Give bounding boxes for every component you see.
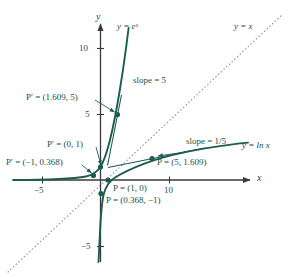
- ln-curve-label: y = ln x: [242, 141, 270, 150]
- leader-p-prime-1609-5: [95, 100, 115, 112]
- y-tick-label--5: −5: [81, 242, 91, 251]
- x-tick-label--5: −5: [34, 186, 44, 195]
- label-p-prime-0-1: P′ = (0, 1): [47, 140, 83, 149]
- label-p-prime-neg1-0368: P′ = (−1, 0.368): [6, 158, 63, 167]
- slope-ln-label: slope = 1/5: [186, 137, 226, 146]
- exp-curve-label: y = eˣ: [117, 22, 138, 31]
- tangent-exp: [108, 95, 122, 166]
- label-p-5-1609: P = (5, 1.609): [157, 158, 207, 167]
- figure-container: y x −5 10 10 5 −5 y = eˣ y = x y = ln x …: [0, 0, 289, 277]
- y-tick-label-10: 10: [79, 44, 88, 53]
- point-p-1-0: [105, 177, 110, 182]
- label-p-1-0: P = (1, 0): [113, 184, 147, 193]
- leader-p-prime-neg1: [82, 165, 92, 173]
- slope-exp-label: slope = 5: [133, 76, 166, 85]
- point-p-prime-0-1: [98, 164, 103, 169]
- point-p-prime-neg1-0368: [91, 173, 96, 178]
- x-axis-label: x: [257, 173, 261, 183]
- y-tick-label-5: 5: [85, 110, 90, 119]
- label-p-prime-1609-5: P′ = (1.609, 5): [26, 93, 78, 102]
- x-tick-label-10: 10: [164, 186, 173, 195]
- identity-curve-label: y = x: [234, 22, 253, 31]
- point-p-5-1609: [149, 156, 154, 161]
- point-p-0368-neg1: [98, 191, 103, 196]
- plot-canvas: [0, 0, 289, 277]
- y-axis-label: y: [96, 12, 100, 22]
- label-p-0368-neg1: P = (0.368, −1): [106, 196, 161, 205]
- point-p-prime-1609-5: [115, 112, 120, 117]
